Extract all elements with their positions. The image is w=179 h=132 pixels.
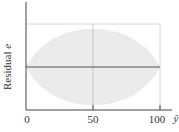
y-axis-label: Residual e xyxy=(1,44,13,90)
x-tick-label-50: 50 xyxy=(88,113,100,125)
x-axis-label: ŷ xyxy=(173,112,179,124)
residual-plot: 0 50 100 ŷ Residual e xyxy=(0,0,179,132)
y-axis-label-prefix: Residual xyxy=(1,49,13,90)
y-axis-label-var: e xyxy=(1,44,13,49)
x-tick-label-100: 100 xyxy=(149,113,166,125)
x-tick-label-0: 0 xyxy=(24,113,30,125)
